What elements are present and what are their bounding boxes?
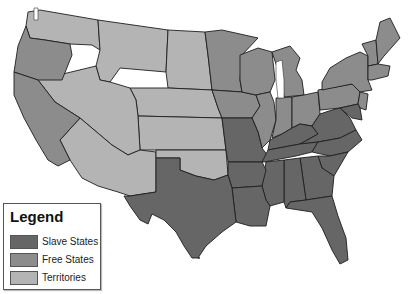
- state-massachusetts: [368, 64, 390, 80]
- legend-label: Free States: [42, 254, 94, 265]
- state-maine: [376, 18, 400, 64]
- legend-label: Slave States: [42, 236, 98, 247]
- map-legend: Legend Slave States Free States Territor…: [3, 203, 101, 290]
- region-nebraska: [130, 88, 222, 118]
- lake-puget: [34, 8, 38, 20]
- legend-item-free-states: Free States: [10, 252, 94, 267]
- legend-item-territories: Territories: [10, 270, 86, 285]
- legend-swatch-territories: [10, 271, 38, 285]
- legend-item-slave-states: Slave States: [10, 234, 98, 249]
- state-arkansas: [228, 162, 266, 188]
- legend-swatch-slave: [10, 235, 38, 249]
- region-dakota: [166, 30, 212, 90]
- region-montana-idaho: [96, 20, 168, 82]
- legend-label: Territories: [42, 272, 86, 283]
- state-wisconsin: [240, 48, 275, 95]
- lake-michigan: [276, 60, 284, 98]
- legend-swatch-free: [10, 253, 38, 267]
- legend-title: Legend: [10, 208, 63, 225]
- state-florida: [286, 196, 348, 264]
- region-kansas: [138, 116, 226, 150]
